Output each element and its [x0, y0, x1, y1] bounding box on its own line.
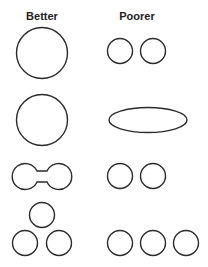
row-4-poorer-three-in-row — [108, 231, 199, 256]
row-2-better-large-circle — [17, 95, 68, 146]
row-4-better-triangle-cluster — [13, 203, 72, 256]
row-3-poorer-two-circles — [108, 164, 166, 189]
shapes-canvas — [0, 0, 208, 267]
row-1-better-large-circle — [17, 28, 68, 79]
row-3-better-dumbbell — [12, 164, 72, 190]
row-1-poorer-two-circles — [108, 39, 166, 64]
row-2-poorer-ellipse — [109, 108, 187, 133]
diagram: Better Poorer — [0, 0, 208, 267]
